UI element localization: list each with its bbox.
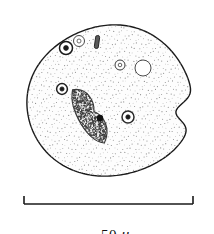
stipple-dot (69, 162, 70, 163)
stipple-dot (192, 154, 193, 155)
stipple-dot (132, 127, 133, 128)
stipple-dot (191, 60, 192, 61)
stipple-dot (92, 48, 93, 49)
stipple-dot (143, 148, 144, 149)
stipple-dot (108, 160, 109, 161)
stipple-dot (94, 94, 95, 95)
stipple-dot (169, 165, 170, 166)
stipple-dot (76, 30, 77, 31)
stipple-dot (145, 118, 146, 119)
stipple-dot (51, 106, 52, 107)
stipple-dot (98, 161, 99, 162)
stipple-dot (70, 69, 71, 70)
stipple-dot (150, 52, 151, 53)
stipple-dot (72, 141, 73, 142)
stipple-dot (56, 102, 57, 103)
stipple-dot (172, 131, 173, 132)
stipple-dot (109, 123, 110, 124)
stipple-dot (144, 85, 145, 86)
stipple-dot (83, 132, 84, 133)
stipple-dot (39, 76, 40, 77)
stipple-dot (90, 144, 91, 145)
stipple-dot (57, 42, 58, 43)
stipple-dot (170, 152, 171, 153)
stipple-dot (61, 128, 62, 129)
stipple-dot (151, 114, 152, 115)
stipple-dot (161, 94, 162, 95)
stipple-dot (58, 64, 59, 65)
stipple-dot (129, 103, 130, 104)
stipple-dot (109, 89, 110, 90)
stipple-dot (89, 56, 90, 57)
stipple-dot (97, 106, 98, 107)
stipple-dot (46, 65, 47, 66)
stipple-dot (51, 174, 52, 175)
stipple-dot (145, 44, 146, 45)
stipple-dot (160, 132, 161, 133)
stipple-dot (121, 107, 122, 108)
stipple-dot (68, 165, 69, 166)
stipple-dot (174, 153, 175, 154)
stipple-dot (188, 152, 189, 153)
stipple-dot (133, 103, 134, 104)
stipple-dot (34, 97, 35, 98)
stipple-dot (50, 132, 51, 133)
stipple-dot (41, 120, 42, 121)
stipple-dot (98, 111, 99, 112)
stipple-dot (50, 166, 51, 167)
stipple-dot (44, 27, 45, 28)
stipple-dot (141, 145, 142, 146)
stipple-dot (68, 74, 69, 75)
stipple-dot (148, 132, 149, 133)
stipple-dot (38, 73, 39, 74)
stipple-dot (161, 89, 162, 90)
stipple-dot (96, 56, 97, 57)
stipple-dot (64, 127, 65, 128)
stipple-dot (159, 95, 160, 96)
stipple-dot (182, 164, 183, 165)
stipple-dot (171, 116, 172, 117)
stipple-dot (32, 77, 33, 78)
stipple-dot (77, 64, 78, 65)
stipple-dot (66, 118, 67, 119)
stipple-dot (50, 74, 51, 75)
stipple-dot (174, 95, 175, 96)
stipple-dot (141, 51, 142, 52)
stipple-dot (161, 166, 162, 167)
stipple-dot (178, 85, 179, 86)
stipple-dot (107, 169, 108, 170)
stipple-dot (84, 82, 85, 83)
stipple-dot (42, 122, 43, 123)
stipple-dot (54, 26, 55, 27)
stipple-dot (146, 111, 147, 112)
stipple-dot (165, 161, 166, 162)
stipple-dot (109, 148, 110, 149)
stipple-dot (113, 65, 114, 66)
stipple-dot (117, 53, 118, 54)
stipple-dot (111, 102, 112, 103)
stipple-dot (167, 42, 168, 43)
stipple-dot (184, 161, 185, 162)
stipple-dot (141, 160, 142, 161)
stipple-dot (91, 35, 92, 36)
stipple-dot (138, 80, 139, 81)
stipple-dot (155, 119, 156, 120)
stipple-dot (135, 55, 136, 56)
stipple-dot (61, 27, 62, 28)
stipple-dot (89, 157, 90, 158)
stipple-dot (51, 89, 52, 90)
stipple-dot (191, 161, 192, 162)
stipple-dot (49, 110, 50, 111)
stipple-dot (50, 97, 51, 98)
stipple-dot (166, 128, 167, 129)
stipple-dot (133, 43, 134, 44)
stipple-dot (33, 47, 34, 48)
stipple-dot (150, 162, 151, 163)
stipple-dot (116, 126, 117, 127)
stipple-dot (42, 40, 43, 41)
stipple-dot (134, 64, 135, 65)
stipple-dot (112, 27, 113, 28)
stipple-dot (71, 132, 72, 133)
stipple-dot (160, 147, 161, 148)
stipple-dot (179, 127, 180, 128)
